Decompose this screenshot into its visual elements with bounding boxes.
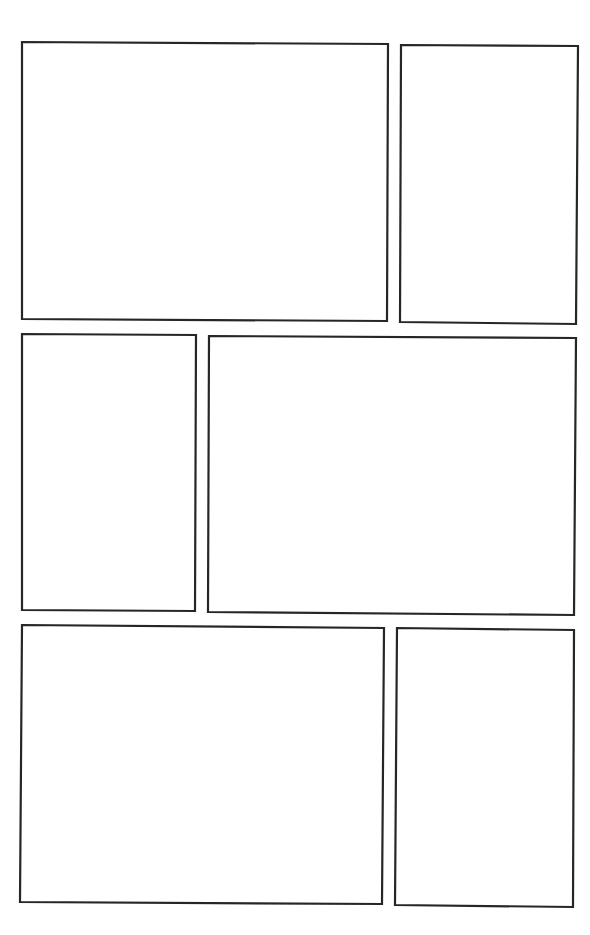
panel-layout [0, 0, 590, 935]
panel-6 [395, 628, 574, 907]
comic-page-template [0, 0, 590, 935]
panel-3 [22, 334, 196, 611]
panel-5 [20, 625, 384, 904]
panel-1 [22, 42, 388, 321]
panel-2 [400, 45, 578, 324]
panel-4 [208, 336, 576, 615]
